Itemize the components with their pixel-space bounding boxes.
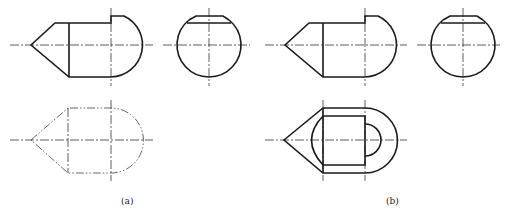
panel-a-side-view <box>163 8 250 86</box>
panel-a <box>10 8 250 181</box>
front-outline <box>285 16 396 77</box>
panel-a-front-view <box>10 8 153 86</box>
front-outline <box>31 16 142 77</box>
inner-left-arc <box>312 116 324 165</box>
panel-b-label: (b) <box>386 196 399 206</box>
panel-b <box>265 8 500 181</box>
panel-a-label: (a) <box>121 196 133 206</box>
phantom-outline <box>31 108 143 173</box>
panel-b-front-view <box>265 8 407 86</box>
panel-b-top-view <box>265 100 407 181</box>
panel-a-top-view <box>10 100 153 181</box>
inner-rectangle <box>323 116 365 165</box>
technical-drawing <box>0 0 505 217</box>
panel-b-side-view <box>417 8 500 86</box>
